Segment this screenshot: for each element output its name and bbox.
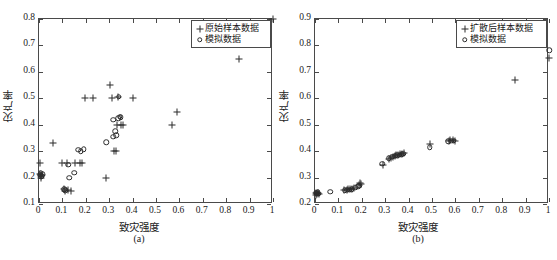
y-tick-label: 0.5: [288, 119, 311, 129]
data-point-plus: [312, 190, 319, 197]
circle-marker-icon: [195, 35, 204, 44]
y-tick: [543, 98, 547, 99]
x-tick: [133, 198, 134, 202]
data-point-circle: [315, 189, 321, 195]
data-point-plus: [61, 187, 68, 194]
legend-label-0: 扩散后样本数据: [470, 24, 533, 33]
x-tick: [409, 198, 410, 202]
y-tick: [315, 151, 319, 152]
data-point-plus: [395, 151, 402, 158]
data-point-plus: [81, 95, 88, 102]
x-tick: [362, 198, 363, 202]
x-tick: [179, 198, 180, 202]
data-point-plus: [174, 108, 181, 115]
legend-item-simulated: 模拟数据: [195, 34, 266, 45]
data-point-circle: [448, 138, 454, 144]
data-point-plus: [89, 95, 96, 102]
data-point-plus: [314, 190, 321, 197]
data-point-plus: [450, 137, 457, 144]
data-point-circle: [111, 134, 117, 140]
data-point-plus: [391, 152, 398, 159]
data-point-circle: [314, 191, 320, 197]
y-tick-label: 0.1: [12, 198, 35, 208]
data-point-plus: [63, 160, 70, 167]
y-tick: [39, 151, 43, 152]
x-tick: [455, 198, 456, 202]
data-point-plus: [389, 153, 396, 160]
data-point-plus: [355, 181, 362, 188]
y-tick-label: 0.6: [288, 93, 311, 103]
data-point-circle: [71, 170, 77, 176]
y-tick-label: 0.7: [12, 40, 35, 50]
data-point-plus: [115, 93, 122, 100]
data-point-circle: [66, 162, 72, 168]
x-tick: [109, 198, 110, 202]
chart-panel-b: 致灾强度 灾产率 (b) 扩散后样本数据 模拟数据 00.10.20.30.40…: [279, 0, 557, 238]
x-tick: [502, 198, 503, 202]
y-tick: [315, 98, 319, 99]
data-point-plus: [397, 151, 404, 158]
y-tick-label: 0.2: [12, 172, 35, 182]
x-tick: [250, 198, 251, 202]
data-point-plus: [120, 121, 127, 128]
y-tick: [39, 45, 43, 46]
data-point-plus: [546, 55, 553, 62]
data-point-plus: [129, 95, 136, 102]
data-point-plus: [399, 150, 406, 157]
data-point-circle: [342, 188, 348, 194]
data-point-circle: [401, 151, 407, 157]
x-tick-label: 0.4: [402, 206, 414, 216]
data-point-circle: [389, 154, 395, 160]
x-tick: [109, 19, 110, 23]
x-tick-label: 0: [312, 206, 317, 216]
data-point-plus: [400, 150, 407, 157]
x-tick: [362, 19, 363, 23]
x-tick-label: 0.9: [243, 206, 255, 216]
data-point-plus: [108, 95, 115, 102]
y-tick: [543, 151, 547, 152]
y-tick-label: 0.3: [12, 145, 35, 155]
y-tick: [267, 178, 271, 179]
y-tick: [543, 178, 547, 179]
y-tick: [267, 98, 271, 99]
x-tick: [385, 19, 386, 23]
data-point-circle: [386, 155, 392, 161]
panel-label-b: (b): [279, 233, 557, 244]
x-tick-label: 0.5: [425, 206, 437, 216]
data-point-circle: [76, 147, 82, 153]
data-point-plus: [50, 140, 57, 147]
data-point-plus: [379, 161, 386, 168]
x-tick: [315, 198, 316, 202]
y-tick-label: 0.4: [288, 145, 311, 155]
x-axis-title-a: 致灾强度: [0, 219, 278, 234]
legend-label-0: 原始样本数据: [205, 24, 259, 33]
x-tick: [409, 19, 410, 23]
x-tick-label: 0.3: [102, 206, 114, 216]
y-tick: [543, 72, 547, 73]
data-point-circle: [393, 153, 399, 159]
data-point-circle: [67, 175, 73, 181]
y-tick-label: 0.8: [12, 13, 35, 23]
data-point-circle: [446, 138, 452, 144]
data-point-circle: [38, 170, 44, 176]
x-tick: [273, 198, 274, 202]
data-point-plus: [512, 76, 519, 83]
data-point-circle: [117, 114, 123, 120]
data-point-circle: [352, 185, 358, 191]
legend-label-1: 模拟数据: [470, 35, 506, 44]
y-tick: [39, 98, 43, 99]
x-tick-label: 0.2: [355, 206, 367, 216]
data-point-plus: [67, 187, 74, 194]
x-tick: [226, 198, 227, 202]
data-point-circle: [347, 187, 353, 193]
x-tick-label: 0.1: [55, 206, 67, 216]
data-point-circle: [316, 191, 322, 197]
data-point-plus: [113, 148, 120, 155]
y-tick: [39, 72, 43, 73]
data-point-circle: [116, 94, 122, 100]
x-tick: [432, 198, 433, 202]
y-tick-label: 0.7: [288, 66, 311, 76]
y-tick: [267, 151, 271, 152]
data-point-plus: [37, 173, 44, 180]
y-tick: [543, 125, 547, 126]
